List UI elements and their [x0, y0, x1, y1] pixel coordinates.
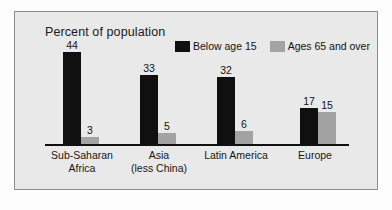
bar-wrap-latin-america-ages-65-and-over: 6 — [235, 118, 253, 144]
bar-value-44: 44 — [66, 39, 78, 51]
bar-wrap-latin-america-below-age-15: 32 — [217, 64, 235, 144]
x-axis-label-asia-less-china: Asia (less China) — [115, 149, 203, 175]
bar-value-15: 15 — [321, 99, 333, 111]
bar-group-sub-saharan-africa: 44 3 — [63, 40, 99, 144]
bar-europe-ages-65-and-over — [318, 112, 336, 144]
bar-wrap-europe-ages-65-and-over: 15 — [318, 99, 336, 144]
bar-latin-america-below-age-15 — [217, 77, 235, 144]
bar-latin-america-ages-65-and-over — [235, 131, 253, 144]
x-axis-label-latin-america: Latin America — [191, 149, 281, 162]
x-axis-line — [45, 144, 349, 146]
x-axis-label-line-1: Latin America — [191, 149, 281, 162]
bar-group-europe: 17 15 — [300, 40, 336, 144]
bar-asia-ages-65-and-over — [158, 133, 176, 144]
chart-title: Percent of population — [45, 25, 165, 39]
bar-wrap-asia-below-age-15: 33 — [140, 62, 158, 144]
bar-value-32: 32 — [220, 64, 232, 76]
bar-sub-saharan-africa-ages-65-and-over — [81, 137, 99, 144]
figure-canvas: Percent of population Below age 15 Ages … — [0, 0, 392, 210]
bar-value-5: 5 — [164, 120, 170, 132]
bar-group-latin-america: 32 6 — [217, 40, 253, 144]
plot-area: 44 3 33 5 — [45, 40, 363, 144]
bar-value-3: 3 — [87, 124, 93, 136]
bar-wrap-asia-ages-65-and-over: 5 — [158, 120, 176, 144]
x-axis-label-line-1: Europe — [277, 149, 353, 162]
bar-value-33: 33 — [143, 62, 155, 74]
bar-europe-below-age-15 — [300, 108, 318, 144]
bar-asia-below-age-15 — [140, 75, 158, 144]
bar-wrap-europe-below-age-15: 17 — [300, 95, 318, 144]
x-axis-label-europe: Europe — [277, 149, 353, 162]
x-axis-label-line-2: (less China) — [115, 162, 203, 175]
bar-wrap-sub-saharan-africa-ages-65-and-over: 3 — [81, 124, 99, 144]
bar-wrap-sub-saharan-africa-below-age-15: 44 — [63, 39, 81, 144]
bar-value-6: 6 — [241, 118, 247, 130]
chart-frame: Percent of population Below age 15 Ages … — [14, 11, 378, 190]
x-axis-label-line-1: Asia — [115, 149, 203, 162]
bar-value-17: 17 — [303, 95, 315, 107]
bar-group-asia-less-china: 33 5 — [140, 40, 176, 144]
bar-sub-saharan-africa-below-age-15 — [63, 52, 81, 144]
x-axis-label-line-1: Sub-Saharan — [37, 149, 127, 162]
x-axis-label-sub-saharan-africa: Sub-Saharan Africa — [37, 149, 127, 175]
x-axis-label-line-2: Africa — [37, 162, 127, 175]
